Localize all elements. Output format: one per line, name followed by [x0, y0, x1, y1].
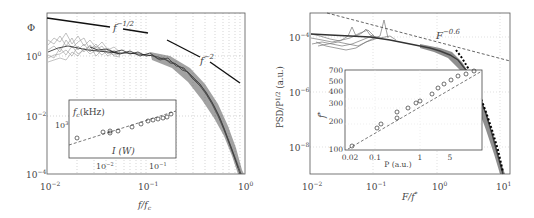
right-inset-frame [345, 70, 482, 150]
right-inset-ytick-700: 700 [329, 66, 344, 75]
right-inset-y-label: f* [316, 112, 327, 119]
figure-canvas: f−1/2 f−2 Φ 100 10−2 10−4 10−2 10−1 100 … [0, 0, 534, 218]
left-ytick-1e0: 100 [26, 50, 41, 62]
left-y-label: Φ [27, 22, 35, 33]
left-xtick-1e0: 100 [238, 180, 253, 192]
right-inset-ytick-500: 500 [329, 77, 344, 86]
left-annotation-f-half: f−1/2 [112, 20, 134, 33]
right-inset-xtick-0.02: 0.02 [342, 153, 359, 162]
right-ytick-1e-4: 10−4 [289, 31, 309, 43]
right-ytick-1e-8: 10−8 [289, 141, 309, 153]
left-ytick-1e-4: 10−4 [26, 168, 46, 180]
right-inset-xtick-5: 5 [448, 153, 453, 162]
left-slope-two-line-a [167, 40, 200, 57]
left-slope-two-line-b [210, 62, 240, 83]
left-panel: f−1/2 f−2 Φ 100 10−2 10−4 10−2 10−1 100 … [26, 13, 253, 211]
left-xtick-1e-1: 10−1 [138, 180, 158, 192]
left-ytick-1e-2: 10−2 [26, 110, 46, 122]
right-xtick-1e0: 100 [432, 180, 447, 192]
left-inset-xtick-1e-1: 10−1 [149, 161, 167, 171]
left-slope-half-line-b [123, 29, 148, 33]
left-inset-ytick-1e3: 103 [55, 120, 68, 130]
right-inset-ytick-200: 200 [329, 117, 344, 126]
right-inset-xtick-0.1: 0.1 [369, 153, 381, 162]
right-inset-xtick-1: 1 [418, 153, 423, 162]
left-slope-half-line-a [47, 18, 110, 27]
left-inset: fc(kHz) 103 I (W) 10−2 10−1 [55, 100, 176, 171]
right-x-label: F/f* [401, 190, 418, 202]
right-inset-ytick-300: 300 [329, 99, 344, 108]
left-x-label: f/fc [137, 200, 152, 211]
right-annotation-f-minus06: F−0.6 [435, 28, 460, 41]
right-xtick-1e-2: 10−2 [302, 180, 322, 192]
left-inset-x-label: I (W) [111, 146, 135, 156]
right-xtick-1e-1: 10−1 [366, 180, 386, 192]
right-inset-x-label: P (a.u.) [384, 160, 411, 169]
right-inset-ytick-400: 400 [329, 87, 344, 96]
right-panel: F−0.6 PSD/P1/2 (a.u.) 10−4 10−6 10−8 10−… [274, 13, 511, 202]
right-ytick-1e-6: 10−6 [289, 86, 309, 98]
right-xtick-1e1: 101 [496, 180, 511, 192]
left-inset-xtick-1e-2: 10−2 [96, 161, 114, 171]
left-xtick-1e-2: 10−2 [40, 180, 60, 192]
right-inset: 700 500 400 300 200 100 f* 0.02 0.1 1 5 … [316, 66, 482, 169]
right-y-label: PSD/P1/2 (a.u.) [274, 66, 285, 128]
